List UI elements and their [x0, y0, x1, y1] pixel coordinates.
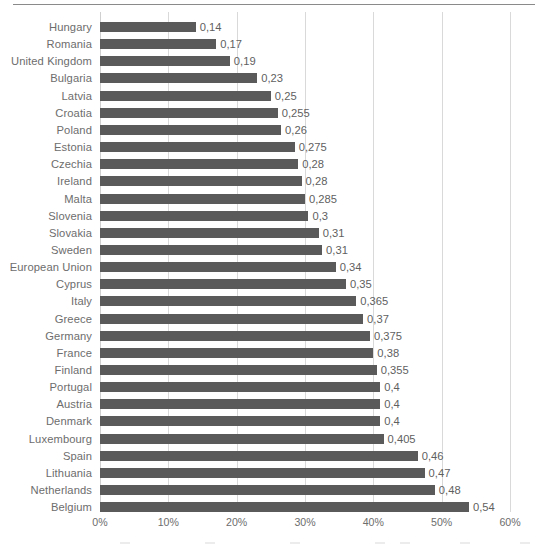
- value-label: 0,375: [374, 327, 402, 345]
- scan-artifact-band: [0, 538, 543, 550]
- bar-row: Finland0,355: [0, 361, 543, 379]
- bar: [100, 348, 373, 358]
- value-label: 0,28: [306, 172, 328, 190]
- bar: [100, 142, 295, 152]
- value-label: 0,285: [309, 190, 337, 208]
- value-label: 0,4: [384, 412, 400, 430]
- scan-speck: [520, 542, 530, 544]
- value-label: 0,4: [384, 395, 400, 413]
- bar: [100, 245, 322, 255]
- bar-row: Greece0,37: [0, 310, 543, 328]
- x-axis: 0%10%20%30%40%50%60%: [0, 512, 543, 532]
- bar: [100, 451, 418, 461]
- value-label: 0,47: [429, 464, 451, 482]
- value-label: 0,4: [384, 378, 400, 396]
- bar-row: Sweden0,31: [0, 241, 543, 259]
- bar-row: Czechia0,28: [0, 155, 543, 173]
- category-label: Slovakia: [0, 224, 92, 242]
- category-label: Poland: [0, 121, 92, 139]
- category-label: Slovenia: [0, 207, 92, 225]
- value-label: 0,28: [302, 155, 324, 173]
- bar: [100, 296, 356, 306]
- value-label: 0,23: [261, 69, 283, 87]
- category-label: Portugal: [0, 378, 92, 396]
- bar-row: Germany0,375: [0, 327, 543, 345]
- bar-row: France0,38: [0, 344, 543, 362]
- bar: [100, 108, 278, 118]
- bar: [100, 416, 380, 426]
- scan-speck: [400, 542, 410, 544]
- x-axis-tick-label: 50%: [412, 512, 472, 532]
- bar-row: Portugal0,4: [0, 378, 543, 396]
- category-label: Greece: [0, 310, 92, 328]
- bar: [100, 331, 370, 341]
- value-label: 0,38: [377, 344, 399, 362]
- scan-speck: [290, 542, 300, 544]
- x-axis-tick-label: 30%: [275, 512, 335, 532]
- category-label: Estonia: [0, 138, 92, 156]
- category-label: Ireland: [0, 172, 92, 190]
- category-label: Croatia: [0, 104, 92, 122]
- bar-row: Italy0,365: [0, 292, 543, 310]
- x-axis-tick-label: 20%: [207, 512, 267, 532]
- category-label: Bulgaria: [0, 69, 92, 87]
- value-label: 0,31: [326, 241, 348, 259]
- value-label: 0,25: [275, 87, 297, 105]
- bar-row: Romania0,17: [0, 35, 543, 53]
- value-label: 0,19: [234, 52, 256, 70]
- category-label: Sweden: [0, 241, 92, 259]
- page-top-rule: [13, 4, 535, 5]
- bar-row: European Union0,34: [0, 258, 543, 276]
- category-label: Luxembourg: [0, 430, 92, 448]
- category-label: Latvia: [0, 87, 92, 105]
- x-axis-tick-label: 10%: [138, 512, 198, 532]
- category-label: Cyprus: [0, 275, 92, 293]
- bar-row: Denmark0,4: [0, 412, 543, 430]
- bar: [100, 434, 384, 444]
- value-label: 0,14: [200, 18, 222, 36]
- value-label: 0,48: [439, 481, 461, 499]
- category-label: Germany: [0, 327, 92, 345]
- category-label: Malta: [0, 190, 92, 208]
- value-label: 0,37: [367, 310, 389, 328]
- bar-chart: Hungary0,14Romania0,17United Kingdom0,19…: [0, 12, 543, 512]
- value-label: 0,365: [360, 292, 388, 310]
- bar: [100, 56, 230, 66]
- bar-row: Ireland0,28: [0, 172, 543, 190]
- category-label: United Kingdom: [0, 52, 92, 70]
- scan-speck: [120, 542, 130, 544]
- bar-row: Cyprus0,35: [0, 275, 543, 293]
- bar: [100, 365, 377, 375]
- bar: [100, 211, 308, 221]
- value-label: 0,3: [312, 207, 328, 225]
- scan-speck: [460, 542, 470, 544]
- bar-rows: Hungary0,14Romania0,17United Kingdom0,19…: [0, 12, 543, 512]
- bar-row: Austria0,4: [0, 395, 543, 413]
- x-axis-tick-label: 0%: [70, 512, 130, 532]
- category-label: France: [0, 344, 92, 362]
- bar-row: Slovakia0,31: [0, 224, 543, 242]
- category-label: Lithuania: [0, 464, 92, 482]
- bar: [100, 73, 257, 83]
- category-label: Denmark: [0, 412, 92, 430]
- bar: [100, 279, 346, 289]
- value-label: 0,275: [299, 138, 327, 156]
- value-label: 0,46: [422, 447, 444, 465]
- bar: [100, 399, 380, 409]
- bar-row: Bulgaria0,23: [0, 69, 543, 87]
- value-label: 0,405: [388, 430, 416, 448]
- value-label: 0,26: [285, 121, 307, 139]
- value-label: 0,17: [220, 35, 242, 53]
- scan-speck: [205, 542, 215, 544]
- bar-row: Slovenia0,3: [0, 207, 543, 225]
- value-label: 0,35: [350, 275, 372, 293]
- category-label: Austria: [0, 395, 92, 413]
- chart-screenshot: Hungary0,14Romania0,17United Kingdom0,19…: [0, 0, 543, 550]
- bar: [100, 314, 363, 324]
- bar: [100, 262, 336, 272]
- bar-row: Estonia0,275: [0, 138, 543, 156]
- category-label: Spain: [0, 447, 92, 465]
- bar: [100, 485, 435, 495]
- value-label: 0,34: [340, 258, 362, 276]
- bar: [100, 125, 281, 135]
